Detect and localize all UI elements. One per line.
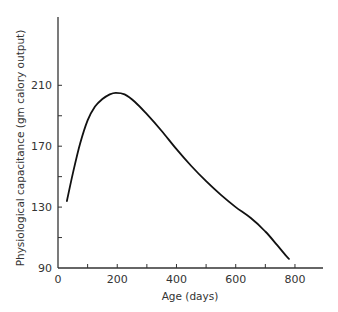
x-tick-label: 400 [166, 273, 187, 286]
y-tick-label: 130 [31, 201, 52, 214]
x-tick-label: 800 [284, 273, 305, 286]
y-axis-label: Physiological capacitance (gm calory out… [14, 30, 26, 267]
series-line [67, 93, 289, 259]
axes [58, 17, 323, 268]
x-axis-label: Age (days) [162, 290, 219, 302]
line-chart: 020040060080090130170210 Age (days) Phys… [0, 0, 338, 312]
data-series [67, 93, 289, 259]
ticks: 020040060080090130170210 [31, 79, 305, 286]
x-tick-label: 600 [225, 273, 246, 286]
x-tick-label: 0 [55, 273, 62, 286]
y-tick-label: 90 [38, 262, 52, 275]
x-tick-label: 200 [107, 273, 128, 286]
y-tick-label: 210 [31, 79, 52, 92]
y-tick-label: 170 [31, 140, 52, 153]
